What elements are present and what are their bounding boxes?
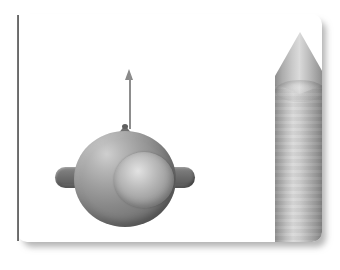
cone-barrel-seam bbox=[275, 80, 322, 102]
inner-sphere bbox=[114, 152, 174, 208]
outer-torus-ring bbox=[74, 131, 176, 227]
illustration-frame bbox=[17, 14, 322, 242]
pointed-cylinder bbox=[273, 32, 322, 242]
direction-arrow-up bbox=[124, 69, 136, 129]
illustration-canvas bbox=[0, 0, 340, 270]
vertical-rule bbox=[17, 15, 19, 241]
arrow-shaft bbox=[129, 75, 131, 129]
ring-sphere-assembly bbox=[55, 131, 195, 227]
